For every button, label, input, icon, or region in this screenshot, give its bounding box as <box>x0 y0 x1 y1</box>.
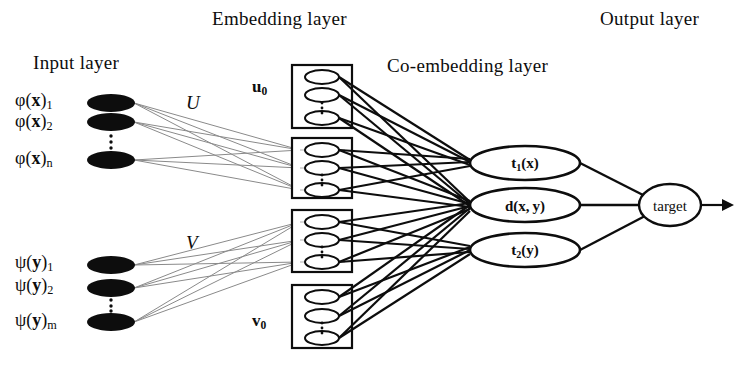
embedding-unit <box>305 290 339 304</box>
input-label-y2: ψ(y)2 <box>15 275 53 298</box>
input-node-ym <box>87 313 135 331</box>
weight-label-v: V <box>186 232 198 254</box>
output-layer-title: Output layer <box>600 8 699 30</box>
input-label-xn: φ(x)n <box>15 148 53 171</box>
input-node-xn <box>87 151 135 169</box>
input-nodes <box>87 94 135 331</box>
input-node-y2 <box>87 279 135 297</box>
input-node-x1 <box>87 94 135 112</box>
embedding-label-v0: v0 <box>252 311 266 332</box>
coembedding-layer-title: Co-embedding layer <box>387 55 548 77</box>
embedding-unit <box>305 233 339 247</box>
weight-label-u: U <box>186 92 200 114</box>
input-label-ym: ψ(y)m <box>15 310 57 333</box>
embedding-layer-title: Embedding layer <box>212 8 347 30</box>
edge-t2-target <box>580 216 645 250</box>
edges-input-x-to-embedding <box>134 103 300 190</box>
input-label-y1: ψ(y)1 <box>15 252 53 275</box>
target-node-label: target <box>653 198 687 215</box>
edges-embedding-to-coembedding <box>339 77 470 338</box>
coembedding-label-t1: t1(x) <box>511 155 539 173</box>
input-label-x1: φ(x)1 <box>15 90 53 113</box>
edges-input-y-to-embedding <box>134 222 300 322</box>
embedding-unit <box>305 161 339 175</box>
input-node-x2 <box>87 113 135 131</box>
coembedding-label-d: d(x, y) <box>505 198 545 215</box>
input-layer-title: Input layer <box>33 52 119 74</box>
embedding-unit <box>305 309 339 323</box>
diagram-canvas: Input layer Embedding layer Co-embedding… <box>0 0 752 365</box>
edge-t1-target <box>580 163 645 196</box>
coembedding-label-t2: t2(y) <box>511 242 539 260</box>
edges-coembedding-to-target <box>580 163 645 250</box>
input-label-x2: φ(x)2 <box>15 111 53 134</box>
embedding-label-u0: u0 <box>252 77 267 98</box>
target-output-arrowhead <box>722 199 734 211</box>
embedding-unit <box>305 70 339 84</box>
input-node-y1 <box>87 256 135 274</box>
embedding-unit <box>305 143 339 157</box>
embedding-unit <box>305 88 339 102</box>
embedding-unit <box>305 215 339 229</box>
